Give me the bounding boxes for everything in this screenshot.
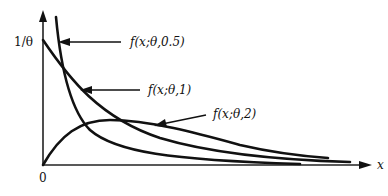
annotation-label-1: f(x;θ,1)	[147, 83, 192, 97]
gamma-density-chart: 1/θ 0 x f(x;θ,0.5) f(x;θ,1) f(x;θ,2)	[0, 0, 388, 196]
x-axis-label: x	[377, 158, 384, 172]
y-axis-arrowhead-icon	[39, 10, 47, 22]
y-tick-label: 1/θ	[14, 35, 33, 49]
annotation-label-2: f(x;θ,2)	[212, 107, 257, 121]
annotation-2: f(x;θ,2)	[154, 107, 257, 127]
origin-label: 0	[39, 171, 47, 185]
annotation-label-0-5: f(x;θ,0.5)	[129, 35, 185, 49]
x-axis-arrowhead-icon	[359, 161, 372, 169]
annotation-0-5: f(x;θ,0.5)	[58, 35, 185, 49]
annotation-1: f(x;θ,1)	[80, 83, 192, 97]
curve-shape-1	[43, 40, 350, 162]
arrowhead-icon	[154, 119, 167, 127]
